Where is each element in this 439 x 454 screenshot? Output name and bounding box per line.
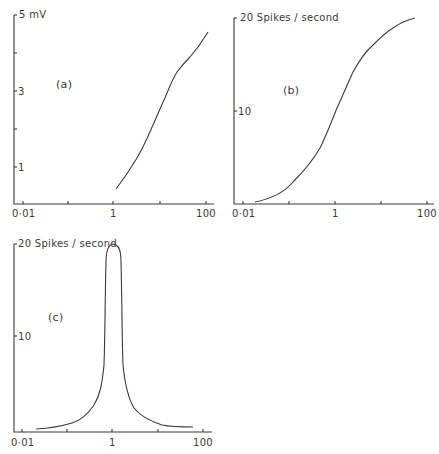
- panel-a-y-tick-3: 3: [18, 87, 25, 97]
- panel-a-x-tick-001: 0·01: [12, 209, 35, 219]
- panel-b-x-tick-001: 0·01: [232, 209, 255, 219]
- panel-b-curve: [255, 18, 415, 202]
- figure: 5 mV 3 1 0·01 1 100 (a) 20 Spikes / seco…: [0, 0, 439, 454]
- panel-a-x-tick-100: 100: [196, 209, 216, 219]
- panel-c-x-tick-1: 1: [109, 438, 116, 448]
- panel-c-y-tick-10: 10: [18, 332, 31, 342]
- panel-a-y-unit-label: 5 mV: [19, 10, 46, 20]
- panel-b-y-tick-10: 10: [238, 107, 251, 117]
- panel-b-y-unit-label: 20 Spikes / second: [240, 13, 339, 23]
- panel-a-axes: [14, 15, 214, 204]
- panel-b-x-tick-1: 1: [332, 209, 339, 219]
- panel-a-label: (a): [56, 79, 72, 90]
- panel-c-x-tick-001: 0·01: [11, 438, 34, 448]
- panel-c-axes: [14, 244, 212, 432]
- panel-a-curve: [116, 32, 208, 189]
- panel-a-x-tick-1: 1: [110, 209, 117, 219]
- panel-c-curve: [36, 244, 193, 429]
- panel-b-axes: [234, 18, 434, 204]
- figure-canvas: [0, 0, 439, 454]
- panel-a-y-tick-1: 1: [18, 163, 25, 173]
- panel-b-x-tick-100: 100: [417, 209, 437, 219]
- panel-c-x-tick-100: 100: [193, 438, 213, 448]
- panel-b-label: (b): [283, 85, 299, 96]
- panel-c-y-unit-label: 20 Spikes / second: [18, 239, 117, 249]
- panel-c-label: (c): [48, 312, 64, 323]
